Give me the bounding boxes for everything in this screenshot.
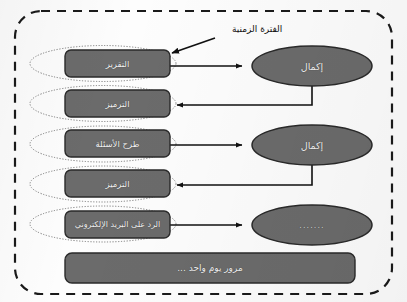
diagram-canvas: الفترة الزمنية التقرير الترميز طرح الأسئ…: [0, 0, 407, 302]
task-box-questions[interactable]: [65, 130, 170, 157]
state-ellipse-completion-2[interactable]: [252, 125, 372, 165]
state-ellipse-pending[interactable]: [252, 205, 372, 245]
connector-completion1-to-coding1: [177, 86, 312, 105]
connector-completion2-to-coding2: [177, 165, 312, 185]
task-box-report[interactable]: [65, 50, 170, 77]
task-box-email[interactable]: [65, 211, 170, 238]
time-period-callout-label: الفترة الزمنية: [232, 24, 282, 34]
time-bar-box[interactable]: [65, 253, 355, 283]
diagram-vector-layer: [0, 0, 407, 302]
task-box-coding-2[interactable]: [65, 170, 170, 197]
task-box-coding-1[interactable]: [65, 90, 170, 117]
callout-arrow-time-period: [172, 38, 215, 53]
state-ellipse-completion-1[interactable]: [252, 46, 372, 86]
